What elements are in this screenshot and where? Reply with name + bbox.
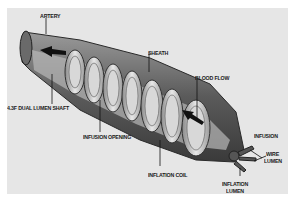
label-shaft: 4.3F DUAL LUMEN SHAFT [7, 104, 69, 111]
label-artery: ARTERY [40, 12, 60, 19]
label-infusion: INFUSION [254, 132, 278, 139]
label-inflation-coil: INFLATION COIL [148, 171, 187, 178]
label-inflation-lumen-line1: INFLATION [222, 180, 248, 187]
label-sheath: SHEATH [148, 49, 168, 56]
label-wire-lumen-line2: LUMEN [264, 157, 282, 164]
label-infusion-opening: INFUSION OPENING [83, 133, 131, 140]
label-inflation-lumen-line2: LUMEN [226, 187, 244, 194]
label-wire-lumen-line1: WIRE [266, 150, 279, 157]
label-blood-flow: BLOOD FLOW [195, 74, 229, 81]
